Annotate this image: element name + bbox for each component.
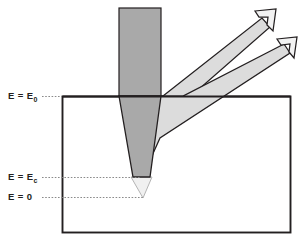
figure-root: E = E0 E = Ec E = 0 [0, 0, 298, 247]
energy-label-ec: E = Ec [8, 172, 37, 184]
energy-label-e0-text: E = E [8, 90, 34, 101]
interaction-volume-diagram [0, 0, 298, 247]
energy-label-zero: E = 0 [8, 192, 32, 204]
energy-label-e0: E = E0 [8, 91, 37, 103]
energy-label-e0-subscript: 0 [34, 96, 38, 103]
energy-label-zero-text: E = 0 [8, 191, 32, 202]
incident-beam-column [119, 8, 161, 96]
energy-label-ec-subscript: c [34, 177, 38, 184]
energy-label-ec-text: E = E [8, 171, 34, 182]
